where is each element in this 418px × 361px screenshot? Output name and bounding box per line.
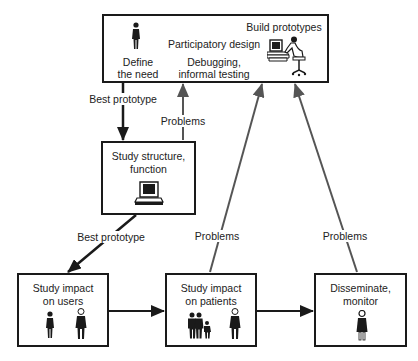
study-structure-label-2: function (103, 163, 194, 175)
study-structure-label-1: Study structure, (103, 150, 194, 162)
define-need-label-1: Define (118, 56, 158, 68)
disseminate-label-1: Disseminate, (316, 282, 405, 294)
arrow-best-prototype-diagonal (68, 215, 136, 272)
disseminate-label-2: monitor (316, 295, 405, 307)
person-icon (45, 311, 55, 339)
doctor-icon (229, 308, 241, 340)
edge-label-best-prototype-2: Best prototype (76, 231, 146, 243)
arrow-problems-disseminate-up (295, 84, 357, 272)
family-icon (187, 312, 213, 340)
node-disseminate-monitor: Disseminate, monitor (314, 273, 407, 347)
debugging-label-2: informal testing (174, 68, 254, 80)
study-patients-label-2: on patients (167, 295, 255, 307)
edge-label-problems-1: Problems (158, 115, 208, 127)
node-study-impact-patients: Study impact on patients (165, 273, 257, 347)
study-users-label-1: Study impact (19, 282, 107, 294)
person-icon (131, 22, 141, 50)
build-prototypes-label: Build prototypes (244, 21, 324, 33)
person-at-computer-icon (267, 36, 313, 78)
edge-label-problems-3: Problems (320, 230, 370, 242)
study-patients-label-1: Study impact (167, 282, 255, 294)
edge-label-problems-2: Problems (192, 230, 242, 242)
node-study-impact-users: Study impact on users (17, 273, 109, 347)
edge-label-best-prototype-1: Best prototype (88, 93, 158, 105)
node-design-prototype: Define the need Participatory design Deb… (102, 14, 329, 83)
define-need-label-2: the need (114, 68, 162, 80)
arrow-problems-patients-up (210, 84, 262, 272)
debugging-label-1: Debugging, (182, 56, 246, 68)
computer-icon (134, 180, 164, 208)
woman-icon (356, 310, 368, 342)
study-users-label-2: on users (19, 295, 107, 307)
doctor-icon (75, 308, 87, 340)
node-study-structure: Study structure, function (101, 141, 196, 215)
participatory-design-label: Participatory design (166, 38, 262, 50)
